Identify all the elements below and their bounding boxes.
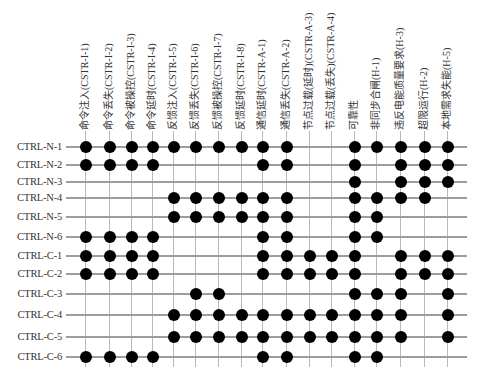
association-dot — [80, 141, 92, 153]
row-label: CTRL-C-6 — [6, 351, 62, 363]
column-header: 超限运行(H-2) — [418, 68, 430, 130]
row-label: CTRL-N-2 — [6, 159, 62, 171]
association-dot — [236, 141, 248, 153]
association-dot — [349, 159, 361, 171]
association-dot — [349, 309, 361, 321]
association-dot — [257, 159, 269, 171]
column-header: 节点过载(延时)(CSTR-A-3) — [303, 13, 315, 130]
association-dot — [190, 192, 202, 204]
association-dot — [395, 192, 407, 204]
column-header: 违反电能质量要求(H-3) — [394, 28, 406, 130]
association-dot — [371, 231, 383, 243]
association-dot — [213, 192, 225, 204]
association-dot — [349, 141, 361, 153]
column-header: 命令注入(CSTR-I-1) — [79, 43, 91, 130]
association-dot — [349, 176, 361, 188]
association-dot — [304, 268, 316, 280]
association-dot — [190, 309, 202, 321]
column-header: 节点过载(丢失)(CSTR-A-4) — [325, 13, 337, 130]
dot-matrix-diagram: 命令注入(CSTR-I-1)命令丢失(CSTR-I-2)命令被操控(CSTR-I… — [0, 0, 478, 379]
association-dot — [104, 231, 116, 243]
association-dot — [371, 351, 383, 363]
association-dot — [419, 159, 431, 171]
association-dot — [126, 159, 138, 171]
row-label: CTRL-N-5 — [6, 211, 62, 223]
association-dot — [349, 250, 361, 262]
association-dot — [442, 250, 454, 262]
association-dot — [304, 309, 316, 321]
association-dot — [213, 309, 225, 321]
association-dot — [126, 250, 138, 262]
association-dot — [168, 192, 180, 204]
association-dot — [147, 141, 159, 153]
row-label: CTRL-C-3 — [6, 288, 62, 300]
association-dot — [80, 231, 92, 243]
association-dot — [257, 192, 269, 204]
association-dot — [126, 268, 138, 280]
association-dot — [442, 309, 454, 321]
association-dot — [395, 331, 407, 343]
association-dot — [326, 331, 338, 343]
column-header: 本地需求失能(H-5) — [441, 48, 453, 130]
column-header: 非同步合闸(H-1) — [370, 58, 382, 130]
association-dot — [349, 351, 361, 363]
association-dot — [80, 159, 92, 171]
association-dot — [168, 309, 180, 321]
association-dot — [147, 231, 159, 243]
association-dot — [190, 331, 202, 343]
column-header: 命令延时(CSTR-I-4) — [146, 43, 158, 130]
association-dot — [326, 250, 338, 262]
association-dot — [80, 250, 92, 262]
association-dot — [213, 211, 225, 223]
association-dot — [371, 211, 383, 223]
association-dot — [419, 192, 431, 204]
association-dot — [442, 141, 454, 153]
association-dot — [419, 250, 431, 262]
association-dot — [395, 250, 407, 262]
association-dot — [104, 141, 116, 153]
association-dot — [395, 288, 407, 300]
association-dot — [104, 351, 116, 363]
association-dot — [236, 192, 248, 204]
association-dot — [281, 141, 293, 153]
association-dot — [304, 250, 316, 262]
association-dot — [147, 159, 159, 171]
association-dot — [326, 309, 338, 321]
association-dot — [349, 331, 361, 343]
association-dot — [257, 331, 269, 343]
association-dot — [326, 268, 338, 280]
association-dot — [371, 309, 383, 321]
column-header: 通信丢失(CSTR-A-2) — [280, 39, 292, 130]
association-dot — [168, 331, 180, 343]
association-dot — [281, 231, 293, 243]
row-label: CTRL-C-4 — [6, 309, 62, 321]
association-dot — [213, 288, 225, 300]
association-dot — [349, 192, 361, 204]
association-dot — [281, 351, 293, 363]
association-dot — [281, 331, 293, 343]
row-label: CTRL-N-4 — [6, 192, 62, 204]
row-label: CTRL-N-1 — [6, 141, 62, 153]
association-dot — [395, 141, 407, 153]
association-dot — [395, 159, 407, 171]
association-dot — [236, 309, 248, 321]
association-dot — [281, 211, 293, 223]
association-dot — [442, 268, 454, 280]
association-dot — [257, 351, 269, 363]
column-header: 反馈丢失(CSTR-I-6) — [189, 43, 201, 130]
association-dot — [190, 141, 202, 153]
association-dot — [371, 141, 383, 153]
column-header: 通信延时(CSTR-A-1) — [256, 39, 268, 130]
association-dot — [371, 331, 383, 343]
association-dot — [236, 331, 248, 343]
row-gridline — [66, 293, 467, 295]
association-dot — [442, 176, 454, 188]
association-dot — [104, 250, 116, 262]
association-dot — [213, 331, 225, 343]
association-dot — [168, 141, 180, 153]
column-header: 反馈被操控(CSTR-I-7) — [212, 33, 224, 130]
association-dot — [168, 211, 180, 223]
association-dot — [126, 231, 138, 243]
column-header: 命令丢失(CSTR-I-2) — [103, 43, 115, 130]
association-dot — [257, 268, 269, 280]
